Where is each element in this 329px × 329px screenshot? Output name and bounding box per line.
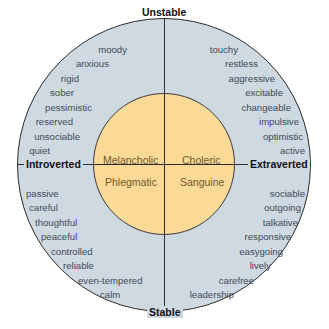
trait-word: unsociable bbox=[34, 131, 80, 142]
trait-word: lively bbox=[250, 260, 271, 271]
trait-word: excitable bbox=[245, 87, 283, 98]
trait-word: controlled bbox=[51, 246, 93, 257]
axis-label-stable: Stable bbox=[147, 306, 183, 318]
personality-diagram: Unstable Stable Introverted Extraverted … bbox=[0, 0, 329, 329]
trait-word: impulsive bbox=[259, 116, 299, 127]
trait-word: aggressive bbox=[229, 73, 275, 84]
trait-word: responsive bbox=[245, 231, 291, 242]
trait-word: reserved bbox=[36, 116, 73, 127]
temperament-choleric: Choleric bbox=[182, 154, 221, 166]
axis-label-introverted: Introverted bbox=[24, 158, 83, 170]
temperament-sanguine: Sanguine bbox=[180, 176, 224, 188]
trait-word: restless bbox=[225, 58, 258, 69]
trait-word: sociable bbox=[270, 188, 305, 199]
trait-word: leadership bbox=[190, 289, 234, 300]
trait-word: passive bbox=[26, 188, 59, 199]
trait-word: anxious bbox=[76, 58, 109, 69]
trait-word: changeable bbox=[241, 102, 291, 113]
trait-word: easygoing bbox=[239, 246, 283, 257]
trait-word: quiet bbox=[29, 145, 50, 156]
trait-word: thoughtful bbox=[35, 217, 77, 228]
temperament-phlegmatic: Phlegmatic bbox=[105, 176, 157, 188]
trait-word: even-tempered bbox=[78, 275, 143, 286]
trait-word: active bbox=[280, 145, 305, 156]
trait-word: optimistic bbox=[263, 131, 303, 142]
trait-word: careful bbox=[29, 202, 58, 213]
trait-word: touchy bbox=[210, 44, 238, 55]
axis-label-unstable: Unstable bbox=[140, 6, 188, 18]
trait-word: pessimistic bbox=[45, 102, 92, 113]
temperament-melancholic: Melancholic bbox=[103, 154, 158, 166]
trait-word: sober bbox=[50, 87, 74, 98]
trait-word: outgoing bbox=[264, 202, 301, 213]
trait-word: talkative bbox=[263, 217, 298, 228]
trait-word: calm bbox=[100, 289, 120, 300]
trait-word: peaceful bbox=[41, 231, 77, 242]
trait-word: moody bbox=[98, 44, 127, 55]
trait-word: carefree bbox=[219, 275, 254, 286]
trait-word: rigid bbox=[61, 73, 79, 84]
trait-word: reliable bbox=[63, 260, 94, 271]
axis-label-extraverted: Extraverted bbox=[248, 158, 310, 170]
